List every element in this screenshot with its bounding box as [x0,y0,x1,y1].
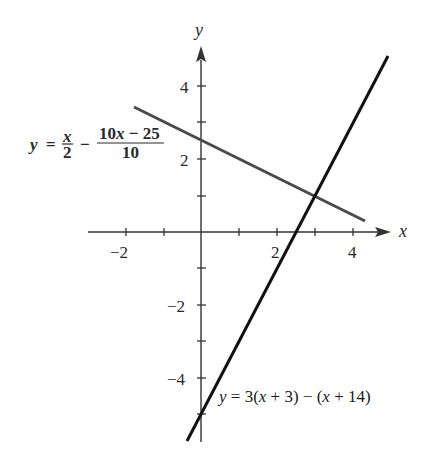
series-line-2 [187,56,388,441]
y-tick-label: −4 [167,370,186,389]
y-axis-arrow-icon [196,46,206,62]
y-axis-label: y [193,20,203,40]
x-tick-label: −2 [110,243,128,262]
y-tick-label: 2 [180,151,189,170]
series-2-label: y = 3(x + 3) − (x + 14) [217,387,371,406]
x-axis-label: x [398,221,407,241]
x-tick-label: 4 [348,243,357,262]
svg-text:−: − [80,135,90,154]
x-tick-label: 2 [271,243,280,262]
svg-text:10x − 25: 10x − 25 [99,124,160,143]
x-axis: −2 2 4 x [88,221,407,262]
chart-canvas: −2 2 4 x 4 2 −2 −4 y y = x 2 [0,0,427,468]
y-tick-label: 4 [180,78,189,97]
svg-text:y: y [28,135,38,154]
svg-text:=: = [46,135,56,154]
svg-text:10: 10 [122,143,139,162]
y-axis: 4 2 −2 −4 y [167,20,206,442]
y-tick-label: −2 [167,297,185,316]
svg-text:2: 2 [63,143,72,162]
series-1-label: y = x 2 − 10x − 25 10 [28,124,164,162]
